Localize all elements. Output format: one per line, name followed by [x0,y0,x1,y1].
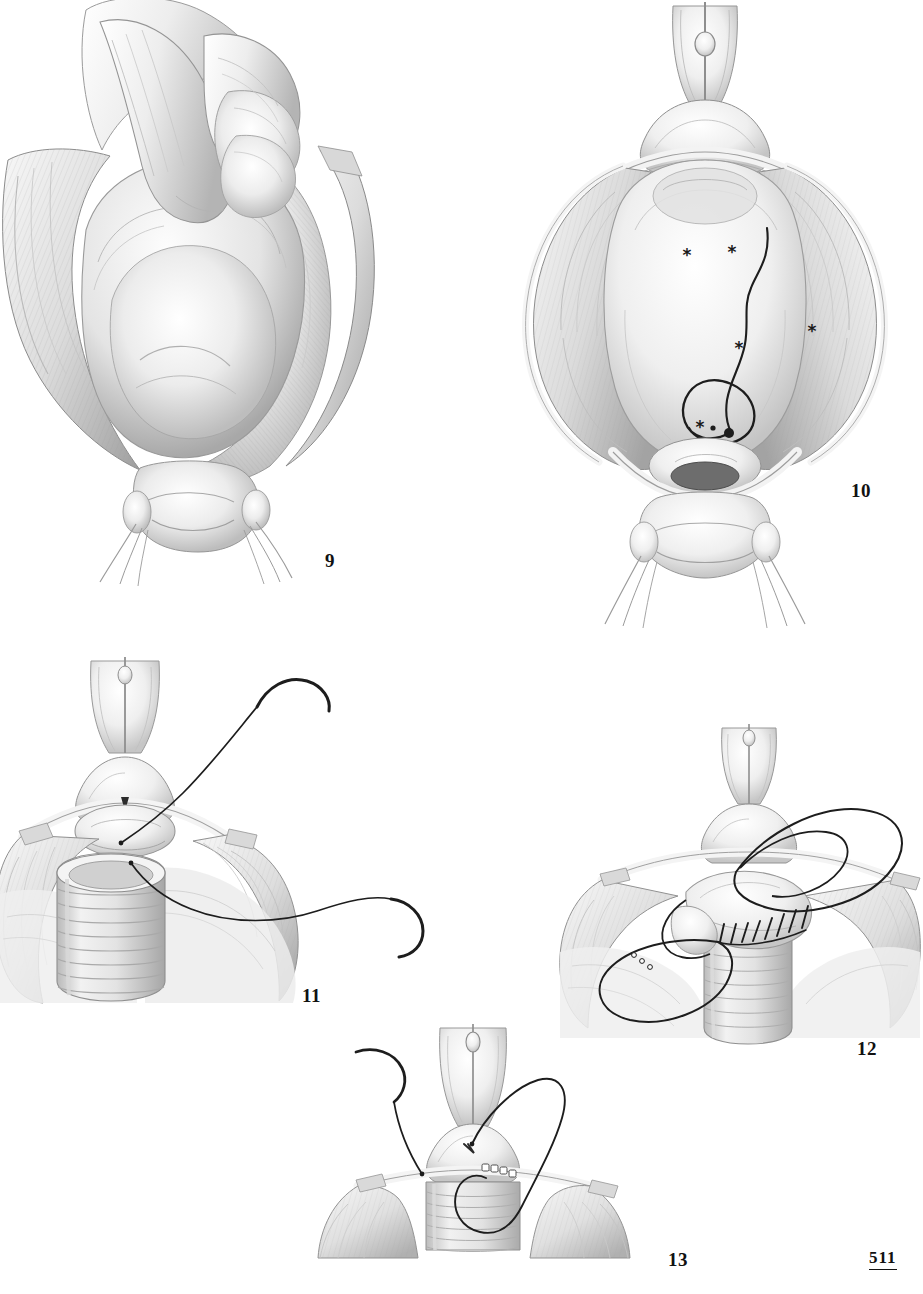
figure-13-illustration [322,1022,722,1274]
curved-needle-lower [391,899,423,957]
figure-11-number: 11 [302,986,321,1005]
retracted-bladder-wall-right [530,1180,630,1258]
page-number: 511 [869,1249,897,1270]
atlas-page: 9 [0,0,923,1294]
bleeding-point-marker: * [683,245,692,265]
suture-knot [724,428,734,438]
prostatic-fossa [604,160,806,464]
figure-9-number: 9 [325,551,335,570]
urethral-catheter [673,2,738,106]
urethral-stump [630,492,780,578]
urethral-catheter [91,657,160,753]
curved-needle [356,1050,405,1102]
urethral-catheter [440,1024,507,1128]
drain-tube [57,853,165,1001]
bleeding-point-marker: * [728,242,737,262]
figure-10-illustration: * * * * * [505,0,905,640]
figure-11-illustration [0,645,455,1005]
bleeding-point-marker: * [808,321,817,341]
retracted-bladder-wall-right [145,829,298,1003]
figure-13-number: 13 [668,1250,688,1269]
retracted-bladder-wall-left [318,1174,418,1258]
figure-10-number: 10 [851,481,871,500]
figure-9-illustration [0,0,390,590]
drain-tube [426,1182,520,1252]
curved-needle-upper [257,679,329,711]
bleeding-point-marker: * [696,417,705,437]
bladder-neck [75,805,175,857]
urethral-catheter [722,724,777,806]
figure-12-illustration [558,722,923,1042]
figure-12-number: 12 [857,1039,877,1058]
